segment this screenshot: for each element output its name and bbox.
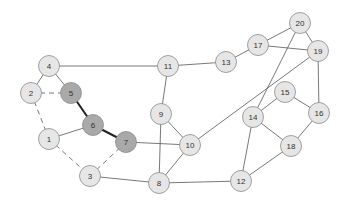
node-label: 20 bbox=[296, 19, 305, 28]
node-14: 14 bbox=[243, 107, 264, 128]
node-label: 2 bbox=[29, 89, 34, 98]
edge-8-12 bbox=[159, 181, 241, 183]
node-label: 11 bbox=[164, 62, 173, 71]
node-label: 9 bbox=[159, 110, 164, 119]
node-label: 7 bbox=[124, 138, 129, 147]
node-label: 3 bbox=[88, 172, 93, 181]
node-9: 9 bbox=[151, 104, 172, 125]
node-2: 2 bbox=[21, 83, 42, 104]
node-label: 1 bbox=[47, 135, 52, 144]
node-6: 6 bbox=[83, 115, 104, 136]
edge-19-10 bbox=[190, 51, 318, 145]
node-10: 10 bbox=[180, 135, 201, 156]
graph-diagram: 1234567891011121314151617181920 bbox=[0, 0, 350, 203]
node-label: 10 bbox=[186, 141, 195, 150]
node-label: 8 bbox=[157, 179, 162, 188]
node-label: 12 bbox=[237, 177, 246, 186]
node-17: 17 bbox=[248, 35, 269, 56]
node-label: 17 bbox=[254, 41, 263, 50]
node-13: 13 bbox=[216, 52, 237, 73]
node-15: 15 bbox=[275, 82, 296, 103]
node-1: 1 bbox=[39, 129, 60, 150]
node-label: 5 bbox=[69, 89, 74, 98]
node-label: 6 bbox=[91, 121, 96, 130]
node-16: 16 bbox=[309, 103, 330, 124]
node-19: 19 bbox=[308, 41, 329, 62]
node-18: 18 bbox=[281, 136, 302, 157]
node-3: 3 bbox=[80, 166, 101, 187]
node-12: 12 bbox=[231, 171, 252, 192]
node-label: 4 bbox=[47, 62, 52, 71]
node-label: 15 bbox=[281, 88, 290, 97]
node-20: 20 bbox=[290, 13, 311, 34]
node-8: 8 bbox=[149, 173, 170, 194]
node-5: 5 bbox=[61, 83, 82, 104]
node-label: 19 bbox=[314, 47, 323, 56]
node-label: 13 bbox=[222, 58, 231, 67]
node-4: 4 bbox=[39, 56, 60, 77]
node-label: 18 bbox=[287, 142, 296, 151]
node-label: 16 bbox=[315, 109, 324, 118]
node-7: 7 bbox=[116, 132, 137, 153]
node-11: 11 bbox=[158, 56, 179, 77]
node-label: 14 bbox=[249, 113, 258, 122]
graph-canvas: 1234567891011121314151617181920 bbox=[0, 0, 350, 203]
